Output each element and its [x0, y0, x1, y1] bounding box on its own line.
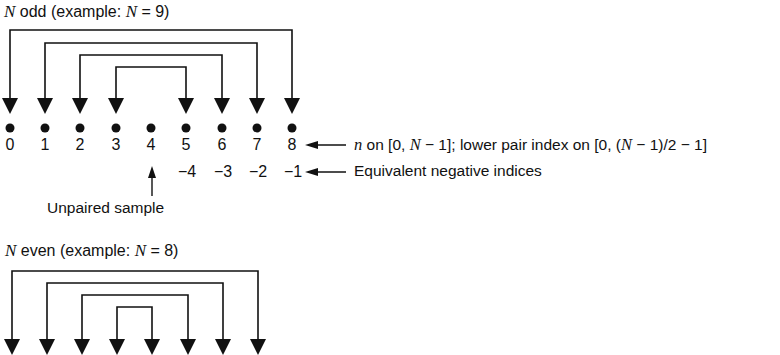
left-arrow-icon: [305, 141, 318, 149]
arrowhead-icon: [109, 339, 125, 355]
bracket-2-5: [82, 295, 188, 345]
arrowhead-icon: [108, 98, 124, 114]
odd-sample-dots: [6, 124, 297, 133]
title-var-n2: N: [135, 241, 146, 260]
arrowhead-icon: [215, 339, 231, 355]
arrowhead-icon: [249, 98, 265, 114]
arrowhead-icon: [4, 339, 20, 355]
index-label: 5: [174, 136, 198, 154]
index-label: 4: [139, 136, 163, 154]
arrowhead-icon: [2, 98, 18, 114]
index-label: 8: [280, 136, 304, 154]
negative-index-label: −1: [276, 163, 310, 181]
negative-index-label: −4: [170, 163, 204, 181]
odd-pair-brackets: [10, 30, 292, 102]
arrowhead-icon: [178, 98, 194, 114]
even-pair-brackets: [12, 271, 258, 345]
index-label: 0: [0, 136, 22, 154]
arrowhead-icon: [214, 98, 230, 114]
negative-indices-annotation: Equivalent negative indices: [354, 162, 542, 180]
title-end: = 8): [146, 242, 178, 259]
bracket-1-7: [45, 43, 257, 102]
arrowhead-icon: [144, 339, 160, 355]
annotation-text: − 1)/2 − 1]: [632, 136, 707, 153]
sample-dot: [218, 124, 227, 133]
arrowhead-icon: [74, 339, 90, 355]
sample-dot: [6, 124, 15, 133]
index-range-annotation: n on [0, N − 1]; lower pair index on [0,…: [354, 135, 707, 155]
index-label: 1: [33, 136, 57, 154]
arrowhead-icon: [37, 98, 53, 114]
bracket-1-6: [47, 283, 223, 345]
arrowhead-icon: [39, 339, 55, 355]
bracket-3-5: [116, 67, 186, 102]
arrowhead-icon: [250, 339, 266, 355]
bracket-0-7: [12, 271, 258, 345]
title-text: even (example:: [16, 242, 134, 259]
bracket-0-8: [10, 30, 292, 102]
odd-arrowheads: [2, 98, 300, 114]
sample-dot: [147, 124, 156, 133]
index-label: 3: [104, 136, 128, 154]
arrowhead-icon: [180, 339, 196, 355]
sample-dot: [76, 124, 85, 133]
arrowhead-icon: [72, 98, 88, 114]
sample-dot: [112, 124, 121, 133]
arrowhead-icon: [284, 98, 300, 114]
unpaired-sample-annotation: Unpaired sample: [47, 199, 164, 217]
negative-index-label: −3: [206, 163, 240, 181]
up-arrow-icon: [148, 166, 156, 178]
bracket-2-6: [80, 55, 222, 102]
even-arrowheads: [4, 339, 266, 355]
sample-dot: [288, 124, 297, 133]
sample-dot: [182, 124, 191, 133]
even-section-title: N even (example: N = 8): [5, 241, 178, 261]
index-label: 7: [245, 136, 269, 154]
var-N: N: [621, 135, 632, 154]
sample-dot: [41, 124, 50, 133]
index-label: 6: [210, 136, 234, 154]
var-n: n: [354, 135, 362, 154]
var-N: N: [410, 135, 421, 154]
index-label: 2: [68, 136, 92, 154]
title-var-n: N: [5, 241, 16, 260]
negative-index-label: −2: [241, 163, 275, 181]
sample-dot: [253, 124, 262, 133]
annotation-text: on [0,: [362, 136, 409, 153]
annotation-text: − 1]; lower pair index on [0, (: [421, 136, 621, 153]
